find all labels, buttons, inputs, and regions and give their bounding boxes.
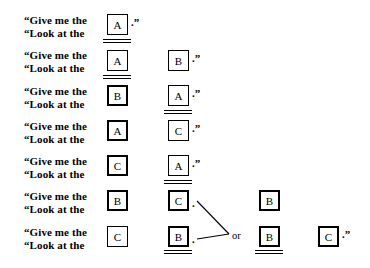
alternative-letter-cell[interactable]: B [259,190,280,211]
row-prompt: “Give me the “Look at the [24,49,87,74]
row-separator [255,253,283,254]
figure-canvas: “Give me the “Look at the A .” “Give me … [0,0,370,268]
letter-cell[interactable]: A [107,120,128,141]
row-prompt: “Give me the “Look at the [24,190,87,215]
prompt-line-1: “Give me the [24,155,87,168]
row-separator [103,75,131,76]
letter-cell[interactable]: A [168,85,189,106]
or-label: or [232,230,241,241]
connector-line-upper [197,201,229,234]
row-prompt: “Give me the “Look at the [24,14,87,39]
tail-letter-cell[interactable]: C [318,226,339,247]
prompt-line-2: “Look at the [24,27,87,40]
letter-cell[interactable]: A [168,155,189,176]
letter-cell[interactable]: C [168,190,189,211]
letter-cell[interactable]: B [168,50,189,71]
letter-cell[interactable]: B [107,85,128,106]
row-terminator: .” [342,229,350,240]
letter-cell[interactable]: A [107,50,128,71]
row-separator [164,113,192,114]
prompt-line-1: “Give me the [24,14,87,27]
row-terminator: .” [192,123,200,134]
row-prompt: “Give me the “Look at the [24,85,87,110]
letter-cell[interactable]: C [107,226,128,247]
row-terminator: .” [131,17,139,28]
prompt-line-1: “Give me the [24,226,87,239]
alternative-letter-cell[interactable]: B [259,226,280,247]
row-prompt: “Give me the “Look at the [24,226,87,251]
row-separator [103,42,131,43]
row-mid-dot: . [192,234,195,245]
letter-cell[interactable]: C [107,155,128,176]
connector-line-lower [197,234,229,239]
letter-cell[interactable]: C [168,120,189,141]
row-separator [103,78,131,79]
prompt-line-2: “Look at the [24,62,87,75]
row-separator [164,253,192,254]
row-separator [255,250,283,251]
row-prompt: “Give me the “Look at the [24,155,87,180]
row-mid-dot: . [192,198,195,209]
prompt-line-1: “Give me the [24,120,87,133]
prompt-line-1: “Give me the [24,190,87,203]
prompt-line-2: “Look at the [24,133,87,146]
row-separator [164,250,192,251]
prompt-line-2: “Look at the [24,239,87,252]
row-separator [164,180,192,181]
row-terminator: .” [192,88,200,99]
row-terminator: .” [192,53,200,64]
letter-cell[interactable]: A [107,14,128,35]
prompt-line-2: “Look at the [24,168,87,181]
row-separator [164,110,192,111]
prompt-line-1: “Give me the [24,85,87,98]
prompt-line-2: “Look at the [24,98,87,111]
prompt-line-1: “Give me the [24,49,87,62]
prompt-line-2: “Look at the [24,203,87,216]
letter-cell[interactable]: B [168,226,189,247]
row-terminator: .” [192,158,200,169]
row-prompt: “Give me the “Look at the [24,120,87,145]
row-separator [103,39,131,40]
row-separator [164,183,192,184]
letter-cell[interactable]: B [107,190,128,211]
